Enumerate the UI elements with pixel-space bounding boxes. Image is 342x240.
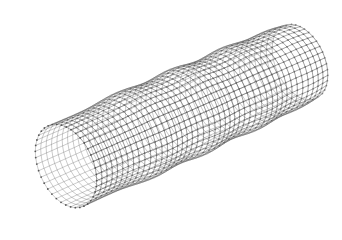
mesh-node bbox=[188, 154, 190, 156]
mesh-edge bbox=[139, 126, 142, 133]
mesh-node bbox=[283, 110, 285, 112]
mesh-node bbox=[201, 89, 203, 91]
mesh-node bbox=[35, 145, 37, 147]
mesh-node bbox=[124, 98, 126, 100]
mesh-node bbox=[36, 139, 38, 141]
mesh-node bbox=[297, 62, 299, 64]
mesh-edge bbox=[69, 150, 71, 157]
mesh-node bbox=[157, 78, 159, 80]
mesh-node bbox=[261, 107, 263, 109]
mesh-edge bbox=[88, 182, 93, 184]
mesh-node bbox=[280, 84, 282, 86]
mesh-node bbox=[176, 116, 178, 118]
mesh-edge bbox=[92, 119, 93, 125]
mesh-node bbox=[269, 82, 271, 84]
mesh-edge bbox=[44, 168, 47, 174]
mesh-edge bbox=[292, 66, 294, 72]
mesh-node bbox=[198, 77, 200, 79]
mesh-node bbox=[112, 116, 114, 118]
mesh-node bbox=[290, 51, 292, 53]
mesh-edge bbox=[73, 161, 78, 163]
mesh-node bbox=[116, 164, 118, 166]
mesh-node bbox=[162, 75, 164, 77]
mesh-node bbox=[160, 100, 162, 102]
mesh-node bbox=[215, 53, 217, 55]
mesh-node bbox=[301, 98, 303, 100]
mesh-edge bbox=[42, 159, 47, 161]
mesh-node bbox=[137, 148, 139, 150]
mesh-node bbox=[299, 54, 301, 56]
mesh-node bbox=[143, 115, 145, 117]
mesh-edge bbox=[180, 94, 181, 100]
mesh-node bbox=[122, 174, 124, 176]
mesh-edge bbox=[68, 184, 73, 186]
mesh-node bbox=[149, 176, 151, 178]
mesh-edge bbox=[48, 157, 53, 159]
mesh-node bbox=[319, 92, 321, 94]
mesh-edge bbox=[60, 174, 65, 176]
mesh-node bbox=[210, 59, 212, 61]
mesh-node bbox=[100, 189, 102, 191]
mesh-node bbox=[232, 77, 234, 79]
mesh-edge bbox=[305, 53, 308, 59]
mesh-node bbox=[194, 151, 196, 153]
mesh-node bbox=[258, 87, 260, 89]
mesh-edge bbox=[41, 141, 46, 143]
mesh-node bbox=[87, 148, 89, 150]
mesh-node bbox=[150, 163, 152, 165]
mesh-node bbox=[276, 117, 278, 119]
mesh-node bbox=[271, 120, 273, 122]
mesh-node bbox=[122, 162, 124, 164]
mesh-node bbox=[85, 128, 87, 130]
mesh-edge bbox=[268, 111, 273, 113]
mesh-edge bbox=[117, 143, 119, 149]
mesh-node bbox=[273, 116, 275, 118]
mesh-node bbox=[261, 100, 263, 102]
mesh-node bbox=[79, 207, 81, 209]
mesh-node bbox=[146, 83, 148, 85]
mesh-node bbox=[276, 72, 278, 74]
mesh-node bbox=[174, 125, 176, 127]
mesh-node bbox=[302, 39, 304, 41]
mesh-node bbox=[252, 41, 254, 43]
mesh-node bbox=[214, 135, 216, 137]
mesh-node bbox=[44, 127, 46, 129]
mesh-edge bbox=[60, 161, 63, 167]
mesh-node bbox=[221, 104, 223, 106]
mesh-node bbox=[150, 150, 152, 152]
mesh-node bbox=[197, 135, 199, 137]
mesh-node bbox=[266, 123, 268, 125]
mesh-node bbox=[173, 110, 175, 112]
mesh-node bbox=[223, 67, 225, 69]
mesh-node bbox=[301, 75, 303, 77]
mesh-node bbox=[241, 129, 243, 131]
mesh-edge bbox=[109, 140, 112, 146]
mesh-edge bbox=[80, 172, 85, 174]
mesh-edge bbox=[117, 135, 120, 142]
mesh-node bbox=[60, 201, 62, 203]
mesh-node bbox=[244, 113, 246, 115]
mesh-node bbox=[144, 165, 146, 167]
mesh-node bbox=[141, 85, 143, 87]
mesh-node bbox=[207, 87, 209, 89]
mesh-node bbox=[108, 139, 110, 141]
mesh-node bbox=[154, 110, 156, 112]
mesh-node bbox=[165, 136, 167, 138]
mesh-edge bbox=[296, 49, 300, 55]
mesh-node bbox=[239, 116, 241, 118]
mesh-edge bbox=[90, 170, 94, 175]
mesh-edge bbox=[76, 200, 81, 202]
mesh-node bbox=[110, 131, 112, 133]
mesh-edge bbox=[284, 104, 289, 107]
mesh-node bbox=[95, 152, 97, 154]
mesh-node bbox=[233, 135, 235, 137]
mesh-node bbox=[208, 68, 210, 70]
mesh-edge bbox=[123, 141, 126, 147]
mesh-node bbox=[172, 141, 174, 143]
mesh-node bbox=[203, 69, 205, 71]
mesh-node bbox=[55, 198, 57, 200]
mesh-node bbox=[312, 76, 314, 78]
mesh-edge bbox=[147, 114, 149, 121]
mesh-node bbox=[299, 103, 301, 105]
mesh-edge bbox=[84, 158, 87, 164]
